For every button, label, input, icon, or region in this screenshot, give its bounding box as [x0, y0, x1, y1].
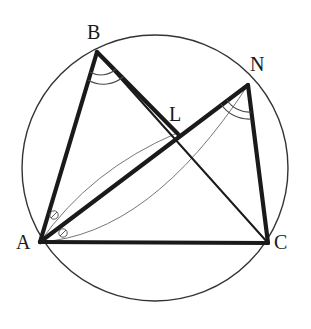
angle-mark-a-lower-tick-icon [60, 230, 66, 236]
segment-nc [248, 85, 268, 243]
segment-bl [97, 52, 178, 134]
angle-mark-a-upper-tick-icon [51, 212, 57, 218]
vertex-label-n: N [250, 54, 264, 74]
segment-an [40, 85, 248, 242]
vertex-label-c: C [274, 232, 287, 252]
vertex-label-b: B [87, 22, 100, 42]
vertex-label-a: A [16, 232, 30, 252]
segment-ac [40, 242, 268, 243]
vertex-label-l: L [169, 104, 181, 124]
geometry-canvas [0, 0, 311, 329]
geometry-figure: A B N C L [0, 0, 311, 329]
